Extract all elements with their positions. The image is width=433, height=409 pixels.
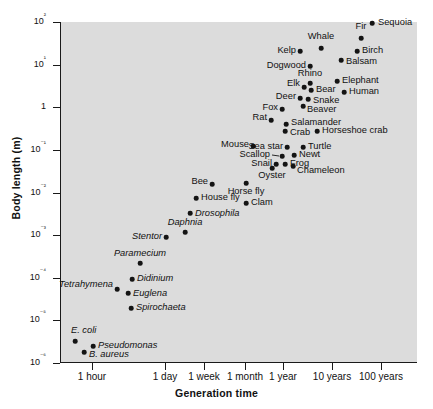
x-axis-tick bbox=[283, 363, 284, 370]
data-point bbox=[370, 21, 375, 26]
body-length-vs-generation-time-chart: 10²10¹110⁻¹10⁻²10⁻³10⁻⁴10⁻⁵10⁻⁶ 1 hour1 … bbox=[0, 0, 433, 409]
data-point bbox=[309, 88, 314, 93]
data-point-label: Rhino bbox=[298, 69, 322, 79]
data-point bbox=[306, 97, 311, 102]
x-axis-tick-label: 10 years bbox=[313, 371, 351, 382]
data-point-label: Clam bbox=[251, 198, 273, 208]
data-point bbox=[280, 154, 285, 159]
x-axis-tick-label: 1 week bbox=[188, 371, 220, 382]
y-axis-tick-label: 10¹ bbox=[12, 60, 46, 69]
data-point-label: Beaver bbox=[307, 105, 336, 115]
y-axis-tick bbox=[53, 235, 60, 236]
data-point-label: Deer bbox=[276, 92, 296, 102]
y-axis-title: Body length (m) bbox=[10, 118, 22, 238]
data-point bbox=[280, 107, 285, 112]
data-point-label: Stentor bbox=[132, 232, 162, 242]
x-axis-tick-label: 1 hour bbox=[78, 371, 106, 382]
y-axis-tick bbox=[53, 193, 60, 194]
data-point-label: E. coli bbox=[71, 326, 96, 336]
x-axis-title: Generation time bbox=[0, 387, 433, 399]
data-point bbox=[292, 153, 297, 158]
x-axis-tick-label: 100 years bbox=[359, 371, 403, 382]
x-axis-tick bbox=[165, 363, 166, 370]
data-point-label: Horseshoe crab bbox=[322, 126, 388, 136]
data-point bbox=[91, 344, 96, 349]
x-axis-tick bbox=[245, 363, 246, 370]
data-point bbox=[274, 162, 279, 167]
y-axis-tick bbox=[53, 150, 60, 151]
data-point bbox=[210, 182, 215, 187]
data-point bbox=[188, 211, 193, 216]
x-axis-tick-label: 1 month bbox=[227, 371, 263, 382]
data-point bbox=[244, 201, 249, 206]
y-axis-tick-label: 10² bbox=[12, 17, 46, 26]
data-point bbox=[283, 162, 288, 167]
data-point bbox=[138, 261, 143, 266]
data-point bbox=[283, 129, 288, 134]
data-point bbox=[335, 79, 340, 84]
data-point-label: Bee bbox=[191, 177, 208, 187]
data-point bbox=[129, 306, 134, 311]
data-point bbox=[130, 277, 135, 282]
x-axis-tick bbox=[92, 363, 93, 370]
x-axis-tick bbox=[332, 363, 333, 370]
x-axis-tick-label: 1 year bbox=[269, 371, 297, 382]
data-point bbox=[284, 122, 289, 127]
data-point-label: Rat bbox=[253, 113, 267, 123]
data-point-label: Crab bbox=[290, 128, 310, 138]
y-axis-tick bbox=[53, 363, 60, 364]
x-axis-tick-label: 1 day bbox=[153, 371, 177, 382]
data-point bbox=[342, 90, 347, 95]
data-point bbox=[285, 145, 290, 150]
y-axis-tick-label: 10⁻⁶ bbox=[12, 358, 46, 367]
data-point-label: Bear bbox=[316, 85, 336, 95]
data-point bbox=[164, 235, 169, 240]
data-point-label: Oyster bbox=[258, 171, 285, 181]
data-point-label: B. aureus bbox=[89, 350, 129, 360]
data-point-label: Elephant bbox=[342, 76, 379, 86]
data-point-label: Balsam bbox=[346, 57, 377, 67]
y-axis-tick bbox=[53, 65, 60, 66]
data-point-label: Sequoia bbox=[378, 18, 412, 28]
x-axis-tick bbox=[381, 363, 382, 370]
data-point bbox=[73, 339, 78, 344]
y-axis-tick bbox=[53, 107, 60, 108]
data-point-label: Daphnia bbox=[168, 218, 203, 228]
data-point bbox=[183, 230, 188, 235]
data-point bbox=[269, 118, 274, 123]
data-point-label: Human bbox=[349, 87, 379, 97]
data-point bbox=[126, 291, 131, 296]
y-axis-tick bbox=[53, 22, 60, 23]
data-point bbox=[319, 46, 324, 51]
data-point-label: Didinium bbox=[137, 274, 173, 284]
data-point bbox=[298, 96, 303, 101]
x-axis-tick bbox=[204, 363, 205, 370]
data-point bbox=[355, 49, 360, 54]
data-point-label: Chameleon bbox=[297, 166, 345, 176]
data-point-label: Fir bbox=[356, 22, 367, 32]
data-point-label: Euglena bbox=[133, 289, 167, 299]
data-point bbox=[308, 81, 313, 86]
data-point-label: House fly bbox=[201, 193, 240, 203]
data-point bbox=[194, 196, 199, 201]
data-point bbox=[82, 350, 87, 355]
data-point bbox=[301, 104, 306, 109]
data-point-label: Snail bbox=[251, 159, 272, 169]
data-point-label: Paramecium bbox=[114, 249, 166, 259]
data-point-label: Kelp bbox=[277, 46, 296, 56]
y-axis-tick bbox=[53, 320, 60, 321]
data-point-label: Birch bbox=[362, 46, 383, 56]
data-point bbox=[339, 58, 344, 63]
data-point bbox=[302, 85, 307, 90]
data-point bbox=[298, 49, 303, 54]
y-axis-tick-label: 10⁻⁵ bbox=[12, 315, 46, 324]
y-axis-tick-label: 10⁻⁴ bbox=[12, 273, 46, 282]
data-point-label: Tetrahymena bbox=[59, 280, 113, 290]
data-point bbox=[244, 181, 249, 186]
data-point-label: Spirochaeta bbox=[136, 303, 186, 313]
data-point-label: Elk bbox=[287, 79, 300, 89]
data-point bbox=[115, 287, 120, 292]
y-axis-tick-label: 1 bbox=[12, 102, 46, 111]
data-point bbox=[359, 36, 364, 41]
data-point-label: Whale bbox=[308, 32, 334, 42]
